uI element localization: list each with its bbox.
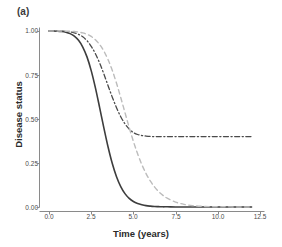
dashed-gray-curve [49, 31, 252, 207]
dashdot-dark-curve [49, 31, 252, 137]
tick-marks [37, 32, 261, 215]
data-curves [49, 31, 252, 207]
plot-area [0, 0, 282, 247]
figure-panel-a: (a) Disease status Time (years) 1.00 0.7… [0, 0, 282, 247]
